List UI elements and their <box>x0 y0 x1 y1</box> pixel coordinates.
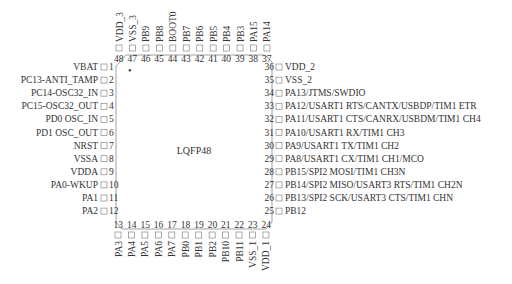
pin-name: VDD_2 <box>285 62 315 72</box>
pin-pad <box>251 45 257 51</box>
pin-pad <box>276 195 282 201</box>
pin-pad <box>196 232 202 238</box>
pin-pad <box>116 45 122 51</box>
pin-pad <box>155 232 161 238</box>
pin-32: 32PA11/USART1 CTS/CANRX/USBDM/TIM1 CH4 <box>265 114 481 124</box>
pin-name: PC14-OSC32_IN <box>31 88 98 98</box>
pin-pad <box>169 232 175 238</box>
pin-number: 45 <box>154 54 164 64</box>
pin-name: PA12/USART1 RTS/CANTX/USBDP/TIM1 ETR <box>285 101 477 111</box>
pin-9: VDDA9 <box>71 167 114 177</box>
pin-14: 14PA4 <box>127 220 137 257</box>
pin-19: 19PB1 <box>194 220 204 257</box>
pin-41: 41PB5 <box>208 25 219 64</box>
pin-pad <box>129 45 135 51</box>
pin-number: 2 <box>109 75 114 85</box>
pin-35: 35VSS_2 <box>265 75 313 85</box>
pin-name: PA3 <box>114 241 124 257</box>
pin-name: PD0 OSC_IN <box>45 114 98 124</box>
pin-pad <box>224 45 230 51</box>
pin-number: 20 <box>208 220 218 230</box>
pin-name: VDD_3 <box>115 12 125 42</box>
pin-42: 42PB6 <box>195 25 206 64</box>
pin-name: PB0 <box>181 241 191 258</box>
pin-number: 12 <box>109 206 119 216</box>
pin-33: 33PA12/USART1 RTS/CANTX/USBDP/TIM1 ETR <box>265 101 478 111</box>
pin-43: 43PB7 <box>181 25 192 64</box>
pin-pad <box>210 45 216 51</box>
pin-number: 28 <box>265 167 275 177</box>
pin-name: VSS_2 <box>285 75 312 85</box>
pin-number: 23 <box>248 220 258 230</box>
pin-pad <box>276 116 282 122</box>
pin-15: 15PA5 <box>140 220 150 257</box>
pin-pad <box>276 64 282 70</box>
pin-20: 20PB2 <box>208 220 218 257</box>
pin-name: PB5 <box>209 25 219 42</box>
pin-name: VSS_3 <box>128 15 138 42</box>
pin-number: 42 <box>195 54 205 64</box>
pin-pad <box>276 77 282 83</box>
pin-pad <box>197 45 203 51</box>
pin-name: PB3 <box>236 25 246 42</box>
pin-number: 40 <box>222 54 232 64</box>
pin-24: 24VDD_1 <box>261 220 271 271</box>
pin-pad <box>183 45 189 51</box>
pin-number: 8 <box>109 154 114 164</box>
pin-number: 37 <box>262 54 272 64</box>
pin-47: 47VSS_3 <box>127 15 138 64</box>
pin-number: 6 <box>109 128 114 138</box>
pin1-marker: • <box>128 65 132 76</box>
pin-pad <box>276 208 282 214</box>
pin-12: PA212 <box>82 206 119 216</box>
pin-number: 30 <box>265 141 275 151</box>
pin-17: 17PA7 <box>167 220 177 257</box>
pin-name: PA14 <box>262 21 272 42</box>
pin-name: NRST <box>74 141 98 151</box>
pin-pad <box>101 116 107 122</box>
pin-pad <box>236 232 242 238</box>
pin-name: VBAT <box>73 62 98 72</box>
pin-25: 25PB12 <box>265 206 307 216</box>
pin-number: 22 <box>235 220 245 230</box>
pin-pad <box>101 77 107 83</box>
pin-pad <box>101 208 107 214</box>
pin-number: 3 <box>109 88 114 98</box>
pin-1: VBAT1 <box>73 62 114 72</box>
pin-pad <box>209 232 215 238</box>
pin-pad <box>237 45 243 51</box>
pin-number: 48 <box>114 54 124 64</box>
pin-21: 21PB10 <box>221 220 231 262</box>
pin-39: 39PB3 <box>235 25 246 64</box>
pin-37: 37PA14 <box>262 21 273 64</box>
pin-name: PC15-OSC32_OUT <box>21 101 98 111</box>
pin-8: VSSA8 <box>74 154 114 164</box>
pin-name: PB15/SPI2 MOSI/TIM1 CH3N <box>285 167 405 177</box>
pin-pad <box>142 232 148 238</box>
pin-44: 44BOOT0 <box>168 11 179 64</box>
pin-38: 38PA15 <box>249 21 260 64</box>
pin-28: 28PB15/SPI2 MOSI/TIM1 CH3N <box>265 167 406 177</box>
pin-name: PA6 <box>154 241 164 257</box>
pin-number: 11 <box>109 193 118 203</box>
pin-name: PA15 <box>249 21 259 42</box>
pin-name: PB9 <box>141 25 151 42</box>
pin-16: 16PA6 <box>154 220 164 257</box>
pin-pad <box>128 232 134 238</box>
pin-name: PB1 <box>194 241 204 258</box>
pin-name: PA7 <box>167 241 177 257</box>
pin-name: VDD_1 <box>261 241 271 271</box>
pin-number: 33 <box>265 101 275 111</box>
pin-pad <box>101 103 107 109</box>
pin-name: PB4 <box>222 25 232 42</box>
pin-pad <box>276 169 282 175</box>
pin-number: 24 <box>261 220 271 230</box>
pin-number: 17 <box>167 220 177 230</box>
pin-number: 18 <box>181 220 191 230</box>
pin-23: 23VSS_1 <box>248 220 258 268</box>
pin-pad <box>101 169 107 175</box>
pin-number: 38 <box>249 54 259 64</box>
pin-name: VSS_1 <box>248 241 258 268</box>
pin-number: 39 <box>235 54 245 64</box>
pin-name: PA9/USART1 TX/TIM1 CH2 <box>285 141 399 151</box>
